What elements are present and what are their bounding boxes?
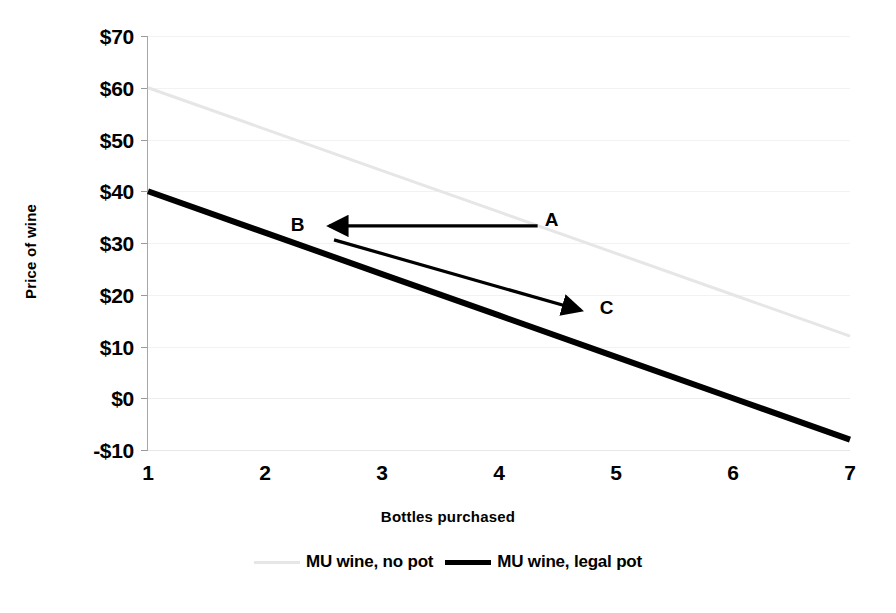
point-label-a: A — [545, 210, 559, 229]
x-tick-label: 6 — [713, 462, 753, 483]
x-tick-label: 1 — [128, 462, 168, 483]
y-tick-label: $20 — [100, 285, 134, 306]
y-tick-mark — [141, 398, 147, 399]
x-axis-title: Bottles purchased — [0, 508, 896, 525]
y-tick-label: $70 — [100, 26, 134, 47]
arrow-b-to-c — [334, 240, 581, 310]
x-tick-label: 3 — [362, 462, 402, 483]
chart-container: $70$60$50$40$30$20$10$0-$10 1234567 Pric… — [0, 0, 896, 613]
y-tick-mark — [141, 191, 147, 192]
gridline — [148, 450, 850, 451]
y-tick-label: $10 — [100, 337, 134, 358]
point-label-c: C — [600, 298, 614, 317]
gridline — [148, 140, 850, 141]
point-label-b: B — [291, 215, 305, 234]
y-tick-mark — [141, 295, 147, 296]
gridline — [148, 88, 850, 89]
gridline — [148, 347, 850, 348]
legend-line-swatch-icon — [445, 560, 491, 565]
legend-label: MU wine, legal pot — [497, 552, 642, 572]
y-tick-label: $60 — [100, 78, 134, 99]
y-tick-mark — [141, 88, 147, 89]
x-tick-label: 2 — [245, 462, 285, 483]
legend-label: MU wine, no pot — [306, 552, 433, 572]
annotation-arrows — [329, 226, 581, 310]
gridline — [148, 295, 850, 296]
gridline — [148, 36, 850, 37]
gridline — [148, 191, 850, 192]
y-tick-mark — [141, 347, 147, 348]
legend-line-swatch-icon — [254, 561, 300, 564]
y-tick-label: $40 — [100, 181, 134, 202]
y-tick-mark — [141, 243, 147, 244]
y-axis-title: Price of wine — [22, 162, 39, 342]
y-tick-label: -$10 — [93, 440, 134, 461]
chart-legend: MU wine, no potMU wine, legal pot — [0, 552, 896, 572]
y-tick-label: $30 — [100, 233, 134, 254]
gridline — [148, 243, 850, 244]
y-tick-mark — [141, 36, 147, 37]
y-tick-label: $50 — [100, 130, 134, 151]
x-tick-label: 4 — [479, 462, 519, 483]
series-line — [148, 191, 850, 439]
legend-item[interactable]: MU wine, legal pot — [445, 552, 642, 572]
y-tick-mark — [141, 140, 147, 141]
x-tick-label: 7 — [830, 462, 870, 483]
legend-item[interactable]: MU wine, no pot — [254, 552, 433, 572]
gridline — [148, 398, 850, 399]
x-tick-label: 5 — [596, 462, 636, 483]
y-axis-line — [147, 36, 148, 451]
y-tick-label: $0 — [111, 388, 134, 409]
series-line — [148, 88, 850, 336]
y-tick-mark — [141, 450, 147, 451]
